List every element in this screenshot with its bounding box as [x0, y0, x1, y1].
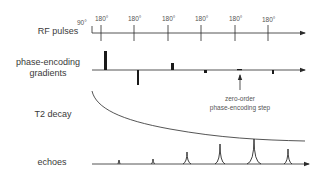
rf-180-label: 180° [162, 15, 176, 22]
rf-90-label: 90° [77, 19, 87, 26]
gradient-lobe [171, 63, 174, 70]
rf-180-label: 180° [262, 16, 276, 23]
gradient-lobe [104, 51, 107, 70]
phase-encoding-row [92, 51, 305, 85]
echo-peak [118, 160, 120, 164]
echo-peak [152, 159, 155, 164]
gradient-lobe [272, 70, 274, 74]
rf-180-label: 180° [229, 15, 243, 22]
rf-180-label: 180° [95, 15, 109, 22]
zero-order-annotation: zero-order phase-encoding step [210, 75, 271, 112]
echo-peak [284, 149, 292, 164]
rf-pulses-row: 90° 180° 180° 180° 180° 180° 180° [77, 15, 305, 41]
gradient-lobe [204, 70, 207, 73]
annotation-line2: phase-encoding step [210, 104, 271, 112]
t2-decay-curve [92, 91, 305, 141]
gradient-lobe-zero [237, 69, 242, 70]
gradient-lobe [137, 70, 139, 85]
echo-peak-max [247, 139, 261, 164]
echoes-row [92, 139, 309, 164]
pulse-sequence-diagram: 90° 180° 180° 180° 180° 180° 180° zero-o… [0, 0, 317, 178]
rf-180-label: 180° [128, 15, 142, 22]
echo-peak [215, 144, 225, 164]
echo-peak [183, 152, 191, 164]
annotation-line1: zero-order [225, 95, 256, 102]
rf-180-label: 180° [195, 15, 209, 22]
